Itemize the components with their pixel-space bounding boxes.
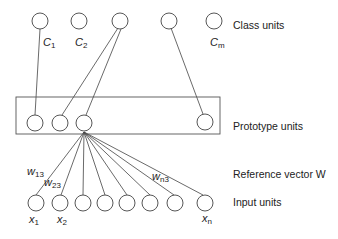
class-node-4	[161, 13, 177, 29]
class-units	[32, 13, 222, 29]
reference-vector-label: Reference vector W	[233, 168, 326, 180]
prototype-units	[27, 114, 213, 131]
label-w23: w23	[44, 176, 61, 190]
edge-c4-p4	[171, 28, 203, 114]
label-cm: Cm	[210, 36, 225, 50]
label-xn: xn	[201, 212, 212, 226]
class-node-2	[71, 13, 87, 29]
input-node-4	[97, 195, 113, 211]
reference-vector-edges	[36, 132, 203, 195]
edge-c3-p2	[62, 28, 118, 115]
input-node-7	[167, 195, 183, 211]
input-node-2	[52, 195, 68, 211]
edge-c1-p1	[35, 29, 40, 115]
prototype-node-4	[197, 114, 213, 130]
label-c2: C2	[75, 36, 88, 50]
prototype-node-3	[76, 115, 92, 131]
input-node-6	[142, 195, 158, 211]
class-node-1	[32, 13, 48, 29]
label-w13: w13	[27, 165, 44, 179]
prototype-layer-box	[16, 97, 220, 134]
input-units	[28, 195, 213, 211]
class-units-label: Class units	[233, 19, 284, 31]
lvq-network-diagram: C1 C2 Cm Class units Prototype units w13…	[0, 0, 338, 239]
class-node-3	[112, 13, 128, 29]
input-node-n	[197, 195, 213, 211]
input-units-label: Input units	[233, 196, 281, 208]
edge-c3-p3	[86, 29, 121, 115]
label-x1: x1	[28, 213, 40, 227]
prototype-node-2	[52, 115, 68, 131]
input-node-5	[119, 195, 135, 211]
class-node-m	[206, 13, 222, 29]
prototype-units-label: Prototype units	[233, 120, 303, 132]
prototype-node-1	[27, 115, 43, 131]
class-prototype-edges	[35, 28, 203, 115]
label-c1: C1	[43, 36, 56, 50]
input-node-1	[28, 195, 44, 211]
label-wn3: wn3	[152, 170, 169, 184]
label-x2: x2	[56, 213, 68, 227]
input-node-3	[75, 195, 91, 211]
